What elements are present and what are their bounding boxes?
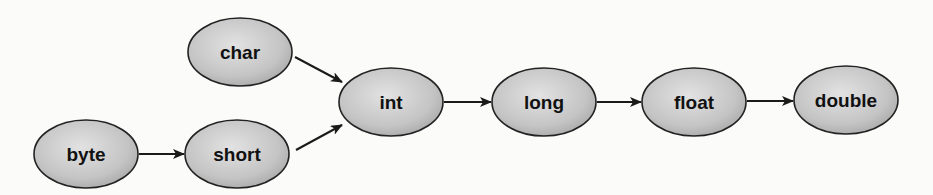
node-char: char — [188, 18, 292, 86]
node-label: short — [213, 144, 261, 165]
arrow-char-to-int — [295, 57, 342, 82]
node-long: long — [492, 68, 596, 136]
node-byte: byte — [34, 120, 138, 188]
node-double: double — [794, 66, 898, 134]
node-label: double — [815, 90, 877, 111]
type-promotion-diagram: charbyteshortintlongfloatdouble — [0, 0, 933, 195]
node-label: char — [220, 42, 261, 63]
arrow-short-to-int — [296, 125, 342, 150]
node-label: float — [674, 92, 715, 113]
node-label: int — [379, 92, 403, 113]
node-int: int — [339, 68, 443, 136]
node-label: byte — [66, 144, 105, 165]
node-short: short — [185, 120, 289, 188]
node-float: float — [642, 68, 746, 136]
diagram-canvas: charbyteshortintlongfloatdouble — [0, 0, 933, 195]
node-label: long — [524, 92, 564, 113]
